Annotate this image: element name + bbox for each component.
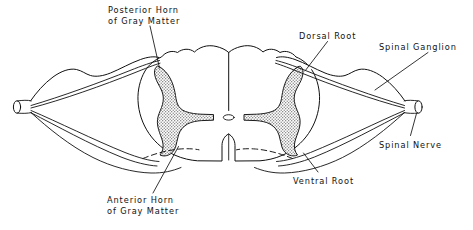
label-posterior-horn-line1: Posterior Horn (108, 5, 179, 15)
spinal-nerve-left-wall-top (18, 100, 32, 101)
label-anterior-horn-line2: of Gray Matter (107, 206, 179, 216)
spinal-nerve-left-wall-bottom (18, 113, 32, 114)
label-ventral-root: Ventral Root (293, 176, 354, 186)
spinal-nerve-right-wall-bottom (404, 113, 418, 114)
spinal-cord-diagram: Posterior Horn of Gray Matter Dorsal Roo… (0, 0, 473, 230)
diagram-page: Posterior Horn of Gray Matter Dorsal Roo… (0, 0, 473, 230)
label-anterior-horn-line1: Anterior Horn (107, 195, 174, 205)
label-spinal-ganglion: Spinal Ganglion (379, 42, 457, 52)
leader-dorsal-root (305, 42, 328, 72)
spinal-nerve-right-wall-top (404, 100, 418, 101)
leader-spinal-nerve (411, 114, 417, 136)
label-posterior-horn-line2: of Gray Matter (108, 16, 180, 26)
leader-spinal-ganglion (375, 53, 428, 91)
central-canal (223, 115, 234, 120)
label-spinal-nerve: Spinal Nerve (379, 140, 442, 150)
label-dorsal-root: Dorsal Root (299, 31, 356, 41)
ventral-root-left (31, 111, 159, 162)
spinal-nerve-right (415, 101, 422, 113)
spinal-nerve-left (13, 101, 20, 113)
